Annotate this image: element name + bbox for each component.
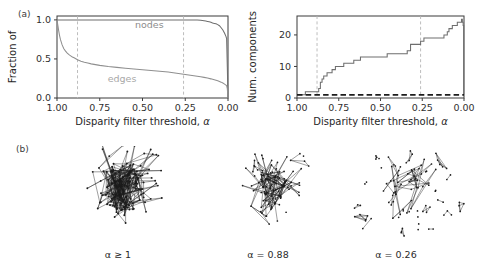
network-node xyxy=(274,202,276,204)
network-node xyxy=(109,204,111,206)
network-node xyxy=(417,216,419,218)
network-node xyxy=(108,155,110,157)
network-node xyxy=(119,178,121,180)
network-node xyxy=(143,197,145,199)
network-node xyxy=(429,206,431,208)
network-node xyxy=(275,198,277,200)
network-node xyxy=(143,153,145,155)
network-node xyxy=(410,150,412,152)
x-axis-title: Disparity filter threshold, α xyxy=(75,116,210,127)
network-node xyxy=(135,174,137,176)
network-node xyxy=(391,166,393,168)
network-node xyxy=(407,173,409,175)
network-node xyxy=(299,153,301,155)
network-node xyxy=(416,179,418,181)
network-node xyxy=(100,180,102,182)
network-node xyxy=(422,211,424,213)
network-node xyxy=(132,202,134,204)
network-node xyxy=(263,174,265,176)
network-node xyxy=(280,196,282,198)
network-node xyxy=(133,176,135,178)
network-node xyxy=(408,181,410,183)
network-node xyxy=(254,160,256,162)
network-node xyxy=(400,166,402,168)
network-node xyxy=(106,171,108,173)
network-node xyxy=(112,177,114,179)
network-node xyxy=(140,165,142,167)
network-node xyxy=(443,214,445,216)
network-node xyxy=(299,184,301,186)
network-node xyxy=(126,163,128,165)
chart-num-components: 1.000.750.500.250.0001020Disparity filte… xyxy=(242,4,482,134)
y-tick-label: 1.0 xyxy=(36,14,51,25)
network-node xyxy=(132,163,134,165)
network-node xyxy=(275,168,277,170)
network-node xyxy=(283,186,285,188)
network-node xyxy=(141,188,143,190)
network-node xyxy=(154,180,156,182)
network-node xyxy=(132,169,134,171)
network-node xyxy=(408,211,410,213)
network-node xyxy=(370,218,372,220)
network-node xyxy=(140,194,142,196)
network-node xyxy=(458,205,460,207)
network-node xyxy=(114,206,116,208)
network-node xyxy=(128,188,130,190)
x-tick-label: 1.00 xyxy=(286,102,307,113)
network-node xyxy=(359,214,361,216)
network-caption-0: α ≥ 1 xyxy=(78,249,158,260)
network-node xyxy=(135,181,137,183)
network-edge xyxy=(251,206,266,216)
network-node xyxy=(265,215,267,217)
network-node xyxy=(260,179,262,181)
network-node xyxy=(360,205,362,207)
network-edges xyxy=(243,154,309,224)
network-node xyxy=(279,177,281,179)
network-node xyxy=(280,197,282,199)
network-node xyxy=(260,211,262,213)
y-tick-label: 0.5 xyxy=(36,53,51,64)
network-node xyxy=(92,171,94,173)
network-node xyxy=(378,158,380,160)
network-node xyxy=(136,171,138,173)
x-tick-label: 0.25 xyxy=(412,102,433,113)
network-node xyxy=(267,178,269,180)
network-node xyxy=(250,205,252,207)
network-node xyxy=(397,182,399,184)
network-node xyxy=(148,168,150,170)
network-node xyxy=(308,165,310,167)
network-node xyxy=(390,180,392,182)
network-node xyxy=(125,196,127,198)
network-node xyxy=(283,171,285,173)
network-node xyxy=(132,208,134,210)
y-tick-label: 20 xyxy=(279,29,291,40)
network-node xyxy=(251,185,253,187)
network-node xyxy=(386,183,388,185)
network-node xyxy=(260,192,262,194)
network-node xyxy=(245,167,247,169)
network-node xyxy=(123,184,125,186)
network-node xyxy=(128,173,130,175)
network-node xyxy=(410,188,412,190)
network-node xyxy=(157,185,159,187)
network-node xyxy=(428,182,430,184)
x-tick-label: 0.50 xyxy=(370,102,391,113)
network-node xyxy=(120,209,122,211)
network-node xyxy=(451,214,453,216)
network-node xyxy=(304,160,306,162)
network-edge xyxy=(388,157,398,176)
network-edge xyxy=(427,207,430,212)
network-node xyxy=(257,169,259,171)
network-node xyxy=(129,177,131,179)
network-node xyxy=(138,188,140,190)
network-node xyxy=(270,195,272,197)
network-edge xyxy=(406,154,412,163)
x-tick-label: 0.25 xyxy=(175,102,196,113)
network-node xyxy=(446,168,448,170)
network-node xyxy=(287,186,289,188)
network-node xyxy=(127,180,129,182)
network-node xyxy=(403,235,405,237)
network-edge xyxy=(127,154,144,164)
network-node xyxy=(269,179,271,181)
network-node xyxy=(122,200,124,202)
